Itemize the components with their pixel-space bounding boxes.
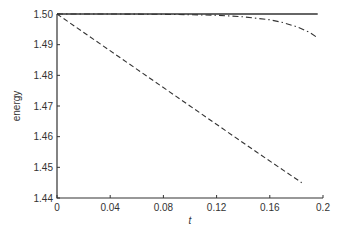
y-tick-label: 1.47 [34, 101, 54, 112]
y-tick-label: 1.50 [34, 9, 54, 20]
y-tick-label: 1.48 [34, 70, 54, 81]
y-axis-label: energy [11, 91, 22, 122]
line-chart: 1.441.451.461.471.481.491.50 00.040.080.… [0, 0, 346, 234]
series-dash-dot-line [57, 14, 318, 38]
series-lines [57, 14, 318, 183]
x-tick-label: 0.16 [260, 202, 280, 213]
x-tick-label: 0.2 [316, 202, 330, 213]
x-tick-label: 0.08 [154, 202, 174, 213]
y-tick-label: 1.45 [34, 162, 54, 173]
y-tick-label: 1.44 [34, 193, 54, 204]
x-axis-label: t [189, 215, 193, 226]
y-axis-ticks: 1.441.451.461.471.481.491.50 [34, 9, 60, 204]
series-dashed-line [57, 14, 302, 183]
x-tick-label: 0.04 [100, 202, 120, 213]
y-tick-label: 1.49 [34, 39, 54, 50]
x-tick-label: 0 [54, 202, 60, 213]
x-tick-label: 0.12 [207, 202, 227, 213]
y-tick-label: 1.46 [34, 131, 54, 142]
